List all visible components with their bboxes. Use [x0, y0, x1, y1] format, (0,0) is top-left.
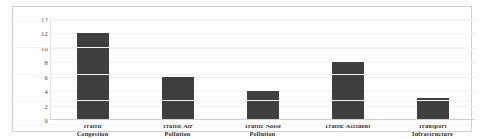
- x-category-label-line: Congestion: [50, 130, 136, 138]
- y-axis-tick-labels: 14121086420: [25, 19, 50, 120]
- bar-slot: [390, 19, 475, 120]
- chart-figure-frame: 14121086420 TrafficCongestionTraffic Air…: [12, 6, 472, 132]
- y-tick-label: 8: [44, 59, 48, 66]
- bar-slot: [135, 19, 220, 120]
- y-tick-label: 0: [44, 117, 48, 124]
- bar[interactable]: [162, 77, 194, 120]
- y-tick-label: 10: [41, 44, 48, 51]
- x-category-label: Traffic AirPollution: [135, 122, 221, 137]
- y-tick-label: 4: [44, 88, 48, 95]
- bar[interactable]: [247, 91, 279, 120]
- x-axis-category-labels: TrafficCongestionTraffic AirPollutionTra…: [50, 122, 475, 139]
- x-category-label: Traffic NoisePollution: [220, 122, 306, 137]
- x-category-label-line: Pollution: [135, 130, 221, 138]
- plot-area: [50, 19, 475, 120]
- bar[interactable]: [332, 62, 364, 120]
- x-category-label-line: Traffic: [50, 122, 136, 130]
- y-tick-label: 12: [41, 30, 48, 37]
- bar[interactable]: [77, 33, 109, 120]
- x-category-label-line: Infrastructure: [390, 130, 476, 138]
- x-category-label-line: Traffic Accident: [305, 122, 391, 130]
- x-category-label: Traffic Accident: [305, 122, 391, 130]
- x-category-label: TransportInfrastructure: [390, 122, 476, 137]
- y-tick-label: 6: [44, 73, 48, 80]
- bar[interactable]: [417, 98, 449, 120]
- y-tick-label: 14: [41, 16, 48, 23]
- x-category-label-line: Transport: [390, 122, 476, 130]
- bar-slot: [305, 19, 390, 120]
- x-category-label-line: Traffic Noise: [220, 122, 306, 130]
- x-category-label: TrafficCongestion: [50, 122, 136, 137]
- x-axis-baseline: [50, 119, 475, 120]
- x-category-label-line: Pollution: [220, 130, 306, 138]
- bar-slot: [50, 19, 135, 120]
- bar-slot: [220, 19, 305, 120]
- x-category-label-line: Traffic Air: [135, 122, 221, 130]
- y-tick-label: 2: [44, 102, 48, 109]
- bar-series: [50, 19, 475, 120]
